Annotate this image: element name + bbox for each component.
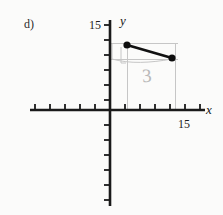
y-axis-tick-label-15: 15 [89,19,101,31]
data-point-right[interactable] [168,54,175,61]
data-point-left[interactable] [123,41,130,48]
panel-letter-label: d) [24,18,34,30]
y-axis-label: y [120,14,126,27]
x-axis-label: x [206,103,212,116]
coordinate-plot-svg [0,0,223,215]
main-vector-segment [127,45,172,58]
figure-canvas: d) y x 15 15 3 [0,0,223,215]
handwritten-three-annotation: 3 [141,66,152,86]
x-axis-tick-label-15: 15 [178,118,190,130]
